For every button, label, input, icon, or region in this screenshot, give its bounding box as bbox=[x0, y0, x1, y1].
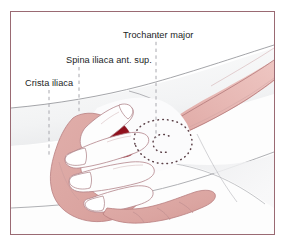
label-crista-iliaca: Crista iliaca bbox=[25, 79, 73, 88]
figure-root: Trochanter major Spina iliaca ant. sup. … bbox=[0, 0, 287, 247]
figure-frame: Trochanter major Spina iliaca ant. sup. … bbox=[10, 11, 275, 235]
label-spina-iliaca-ant-sup: Spina iliaca ant. sup. bbox=[66, 56, 152, 65]
label-trochanter-major: Trochanter major bbox=[123, 31, 193, 40]
anatomical-illustration-svg bbox=[11, 12, 274, 234]
